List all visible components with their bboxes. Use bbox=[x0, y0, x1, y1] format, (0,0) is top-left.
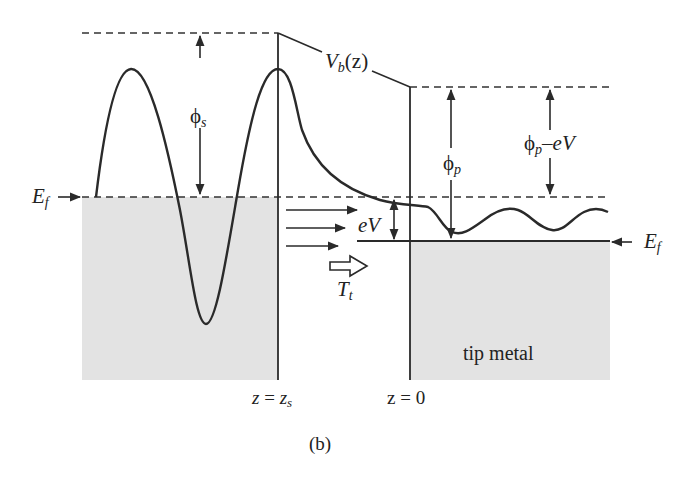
phi-p-minus-ev-label: ϕp–eV bbox=[524, 131, 577, 157]
hollow-transmission-arrow-icon bbox=[330, 256, 367, 276]
sample-surface-position-label: z = zs bbox=[251, 387, 292, 410]
tip-position-label: z = 0 bbox=[387, 387, 425, 408]
barrier-potential-line bbox=[372, 71, 410, 87]
transmission-label: Tt bbox=[337, 277, 354, 303]
sample-filled-states-region bbox=[82, 197, 278, 380]
phi-p-label: ϕp bbox=[443, 151, 461, 177]
phi-s-label: ϕs bbox=[190, 104, 207, 130]
panel-label: (b) bbox=[309, 433, 331, 455]
barrier-potential-line bbox=[278, 33, 322, 52]
tip-metal-label: tip metal bbox=[463, 342, 534, 365]
fermi-right-label: Ef bbox=[643, 229, 663, 255]
fermi-left-label: Ef bbox=[31, 184, 51, 210]
barrier-potential-label: Vb(z) bbox=[325, 49, 368, 75]
tunneling-energy-diagram: Vb(z) ϕs ϕp ϕp–eV eV Ef Ef Tt tip metal … bbox=[0, 0, 693, 477]
ev-label: eV bbox=[358, 213, 382, 237]
